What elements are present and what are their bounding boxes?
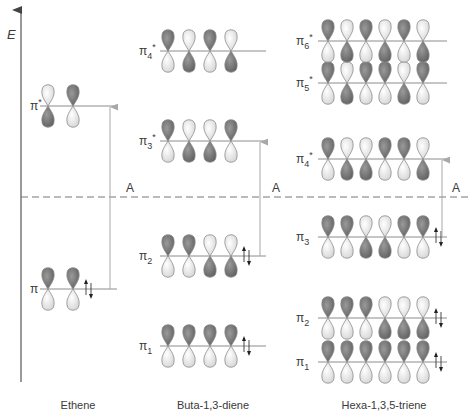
light-lobe bbox=[322, 83, 334, 104]
dark-lobe bbox=[341, 83, 353, 104]
dark-lobe bbox=[162, 235, 174, 256]
dark-lobe bbox=[360, 341, 372, 362]
dark-lobe bbox=[360, 297, 372, 318]
dark-lobe bbox=[398, 83, 410, 104]
light-lobe bbox=[225, 141, 237, 162]
light-lobe bbox=[204, 235, 216, 256]
column-buta-1-3-diene: π1π2π3*π4* bbox=[139, 30, 266, 367]
orbital-level: π1 bbox=[296, 341, 447, 383]
dark-lobe bbox=[183, 141, 195, 162]
light-lobe bbox=[204, 120, 216, 141]
orbital-label: π3 bbox=[296, 230, 309, 247]
dark-lobe bbox=[162, 325, 174, 346]
light-lobe bbox=[379, 20, 391, 41]
light-lobe bbox=[398, 41, 410, 62]
light-lobe bbox=[162, 141, 174, 162]
light-lobe bbox=[417, 237, 429, 258]
diagram-canvas: E AAA ππ*π1π2π3*π4*π1π2π3π4*π5*π6* Ethen… bbox=[0, 0, 474, 419]
threshold-label-a: A bbox=[452, 181, 460, 195]
light-lobe bbox=[360, 216, 372, 237]
dark-lobe bbox=[204, 256, 216, 277]
light-lobe bbox=[341, 237, 353, 258]
dark-lobe bbox=[379, 237, 391, 258]
dark-lobe bbox=[183, 235, 195, 256]
light-lobe bbox=[162, 256, 174, 277]
orbital-levels: ππ*π1π2π3*π4*π1π2π3π4*π5*π6* bbox=[30, 20, 447, 383]
dark-lobe bbox=[225, 325, 237, 346]
dark-lobe bbox=[360, 20, 372, 41]
dark-lobe bbox=[322, 216, 334, 237]
dark-lobe bbox=[379, 62, 391, 83]
light-lobe bbox=[322, 159, 334, 180]
light-lobe bbox=[360, 362, 372, 383]
dark-lobe bbox=[67, 85, 79, 106]
dark-lobe bbox=[379, 341, 391, 362]
dark-lobe bbox=[322, 297, 334, 318]
light-lobe bbox=[183, 346, 195, 367]
light-lobe bbox=[162, 346, 174, 367]
light-lobe bbox=[379, 297, 391, 318]
dark-lobe bbox=[417, 216, 429, 237]
orbital-label: π1 bbox=[296, 355, 309, 372]
dark-lobe bbox=[183, 325, 195, 346]
light-lobe bbox=[225, 30, 237, 51]
dark-lobe bbox=[204, 30, 216, 51]
column-hexa-1-3-5-triene: π1π2π3π4*π5*π6* bbox=[296, 20, 447, 383]
dark-lobe bbox=[162, 120, 174, 141]
dark-lobe bbox=[225, 51, 237, 72]
threshold-label-a: A bbox=[126, 181, 134, 195]
orbital-label: π* bbox=[30, 97, 42, 113]
light-lobe bbox=[417, 362, 429, 383]
light-lobe bbox=[417, 20, 429, 41]
orbital-label: π4* bbox=[296, 150, 313, 169]
column-title: Ethene bbox=[61, 399, 96, 411]
light-lobe bbox=[417, 297, 429, 318]
orbital-level: π4* bbox=[139, 30, 266, 72]
orbital-level: π* bbox=[30, 85, 117, 127]
threshold-label-a: A bbox=[272, 181, 280, 195]
dark-lobe bbox=[379, 41, 391, 62]
dark-lobe bbox=[322, 138, 334, 159]
dark-lobe bbox=[398, 216, 410, 237]
dark-lobe bbox=[341, 159, 353, 180]
orbital-label: π6* bbox=[296, 32, 313, 51]
light-lobe bbox=[42, 289, 54, 310]
light-lobe bbox=[379, 216, 391, 237]
light-lobe bbox=[398, 159, 410, 180]
dark-lobe bbox=[322, 62, 334, 83]
dark-lobe bbox=[417, 159, 429, 180]
light-lobe bbox=[341, 20, 353, 41]
light-lobe bbox=[398, 237, 410, 258]
light-lobe bbox=[360, 41, 372, 62]
dark-lobe bbox=[379, 138, 391, 159]
orbital-level: π1 bbox=[139, 325, 266, 367]
orbital-label: π2 bbox=[296, 311, 309, 328]
column-title: Buta-1,3-diene bbox=[177, 399, 249, 411]
dark-lobe bbox=[183, 51, 195, 72]
light-lobe bbox=[360, 138, 372, 159]
dark-lobe bbox=[417, 41, 429, 62]
light-lobe bbox=[183, 120, 195, 141]
dark-lobe bbox=[42, 268, 54, 289]
orbital-label: π4* bbox=[139, 42, 156, 61]
light-lobe bbox=[341, 138, 353, 159]
orbital-label: π2 bbox=[139, 249, 152, 266]
light-lobe bbox=[379, 362, 391, 383]
dark-lobe bbox=[225, 120, 237, 141]
light-lobe bbox=[42, 85, 54, 106]
dark-lobe bbox=[398, 20, 410, 41]
dark-lobe bbox=[341, 341, 353, 362]
light-lobe bbox=[162, 51, 174, 72]
dark-lobe bbox=[204, 325, 216, 346]
orbital-level: π2 bbox=[296, 297, 447, 339]
column-titles: EtheneButa-1,3-dieneHexa-1,3,5-triene bbox=[61, 399, 427, 411]
dark-lobe bbox=[204, 141, 216, 162]
light-lobe bbox=[341, 318, 353, 339]
light-lobe bbox=[379, 159, 391, 180]
dark-lobe bbox=[341, 297, 353, 318]
mo-energy-diagram: E AAA ππ*π1π2π3*π4*π1π2π3π4*π5*π6* Ethen… bbox=[0, 0, 474, 419]
dark-lobe bbox=[42, 106, 54, 127]
light-lobe bbox=[398, 362, 410, 383]
orbital-label: π3* bbox=[139, 132, 156, 151]
orbital-level: π2 bbox=[139, 235, 266, 277]
